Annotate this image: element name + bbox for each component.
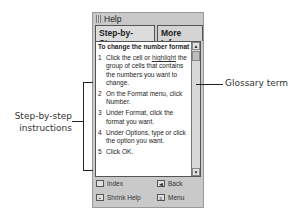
step-number: 3 <box>98 109 106 125</box>
help-footer: Index ◀ Back ▪ Shrink Help ≡ Menu <box>93 178 203 208</box>
menu-icon: ≡ <box>157 194 165 201</box>
step-item: 3 Under Format, click the format you wan… <box>98 109 190 125</box>
bracket-bottom <box>83 170 93 171</box>
tab-strip: Step-by-Step More Info <box>95 25 203 41</box>
step-text: Under Options, type or click the option … <box>106 129 190 145</box>
step-text: On the Format menu, click Number. <box>106 90 190 106</box>
shrink-help-button[interactable]: ▪ Shrink Help <box>96 194 141 201</box>
step-number: 1 <box>98 54 106 87</box>
scroll-down-arrow-icon[interactable]: ▼ <box>192 168 200 176</box>
menu-button[interactable]: ≡ Menu <box>157 194 184 201</box>
grip-icon[interactable] <box>96 15 101 23</box>
tab-more-info[interactable]: More Info <box>157 25 203 41</box>
steps-annotation-line1: Step-by-step <box>2 110 72 122</box>
back-arrow-icon: ◀ <box>157 180 165 187</box>
step-text: Under Format, click the format you want. <box>106 109 190 125</box>
tab-step-by-step[interactable]: Step-by-Step <box>95 25 155 41</box>
title-bar[interactable]: Help <box>93 13 203 24</box>
shrink-icon: ▪ <box>96 194 104 201</box>
index-button[interactable]: Index <box>96 180 123 187</box>
step-item: 5 Click OK. <box>98 148 190 156</box>
back-label: Back <box>168 180 182 187</box>
glossary-link[interactable]: highlight <box>152 54 176 61</box>
bracket-vertical <box>83 82 84 171</box>
steps-annotation: Step-by-step instructions <box>2 110 72 134</box>
menu-label: Menu <box>168 194 184 201</box>
glossary-annotation: Glossary term <box>225 78 288 88</box>
step-text: Click OK. <box>106 148 133 156</box>
index-icon <box>96 180 104 187</box>
scroll-thumb[interactable] <box>192 51 200 61</box>
back-button[interactable]: ◀ Back <box>157 180 182 187</box>
shrink-label: Shrink Help <box>107 194 141 201</box>
index-label: Index <box>107 180 123 187</box>
step-text-pre: Click the cell or <box>106 54 152 61</box>
window-title: Help <box>104 14 121 24</box>
help-window: Help Step-by-Step More Info To change th… <box>92 12 204 208</box>
step-item: 2 On the Format menu, click Number. <box>98 90 190 106</box>
help-heading: To change the number format <box>98 43 190 51</box>
step-number: 4 <box>98 129 106 145</box>
scroll-up-arrow-icon[interactable]: ▲ <box>192 42 200 50</box>
steps-annotation-line2: instructions <box>2 122 72 134</box>
step-item: 1 Click the cell or highlight the group … <box>98 54 190 87</box>
help-content: To change the number format 1 Click the … <box>95 41 201 177</box>
vertical-scrollbar[interactable]: ▲ ▼ <box>191 42 200 176</box>
step-number: 2 <box>98 90 106 106</box>
step-item: 4 Under Options, type or click the optio… <box>98 129 190 145</box>
step-number: 5 <box>98 148 106 156</box>
step-text: Click the cell or highlight the group of… <box>106 54 190 87</box>
bracket-top <box>83 82 93 83</box>
bracket-connector <box>72 121 83 122</box>
glossary-callout-line <box>196 84 223 85</box>
